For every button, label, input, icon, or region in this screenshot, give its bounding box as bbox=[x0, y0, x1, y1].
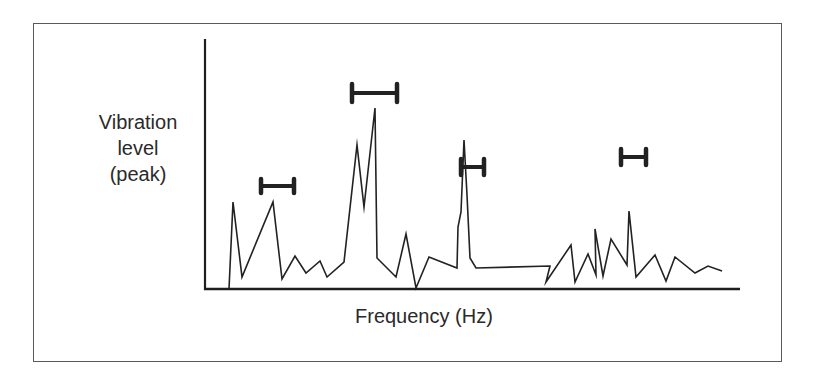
axes bbox=[204, 39, 740, 290]
x-axis-label: Frequency (Hz) bbox=[355, 303, 493, 329]
y-axis-label-line1: Vibration bbox=[68, 109, 208, 135]
y-axis-label-line3: (peak) bbox=[68, 161, 208, 187]
error-bar-2 bbox=[352, 84, 397, 102]
data-series bbox=[229, 108, 722, 289]
spectrum-line bbox=[229, 108, 722, 289]
chart-figure: Vibration level (peak) Frequency (Hz) bbox=[0, 0, 814, 377]
error-bar-4 bbox=[621, 149, 646, 165]
error-bars bbox=[261, 84, 646, 193]
y-axis-label-line2: level bbox=[68, 135, 208, 161]
y-axis-label: Vibration level (peak) bbox=[68, 109, 208, 187]
error-bar-1 bbox=[261, 179, 294, 193]
